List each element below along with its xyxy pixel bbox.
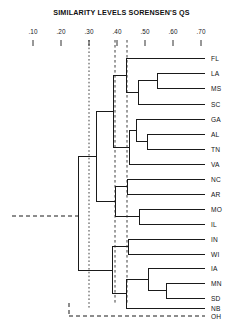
leaf-label-nc: NC (211, 176, 221, 183)
leaf-label-ia: IA (211, 265, 218, 272)
leaf-label-in: IN (211, 236, 218, 243)
leaf-label-tn: TN (211, 146, 220, 153)
leaf-label-al: AL (211, 131, 219, 138)
leaf-label-la: LA (211, 70, 219, 77)
leaf-label-ar: AR (211, 191, 221, 198)
leaf-label-fl: FL (211, 55, 219, 62)
leaf-label-sd: SD (211, 295, 221, 302)
leaf-label-wi: WI (211, 251, 219, 258)
dendrogram-figure: SIMILARITY LEVELS SORENSEN'S QS .10 .20 … (0, 0, 243, 321)
axis-tick-marks (33, 40, 201, 46)
leaf-label-ga: GA (211, 116, 221, 123)
dendrogram-links (78, 58, 205, 308)
leaf-label-mn: MN (211, 280, 222, 287)
leaf-label-nb: NB (211, 305, 221, 312)
leaf-label-oh: OH (211, 313, 221, 320)
dashed-root-elements (12, 216, 205, 316)
reference-lines (89, 40, 127, 309)
leaf-label-va: VA (211, 161, 220, 168)
leaf-label-sc: SC (211, 101, 221, 108)
leaf-label-mo: MO (211, 206, 222, 213)
leaf-label-il: IL (211, 221, 217, 228)
dendrogram-plot (0, 0, 243, 321)
leaf-label-ms: MS (211, 85, 221, 92)
